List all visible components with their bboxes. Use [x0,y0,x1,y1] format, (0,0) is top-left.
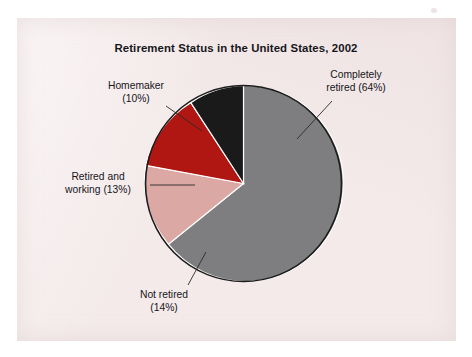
pie-label-completely-retired: Completely retired (64%) [305,68,407,94]
pie-label-retired-and-working: Retired and working (13%) [42,170,154,196]
pie-label-not-retired: Not retired (14%) [112,288,216,314]
pie-label-homemaker: Homemaker (10%) [88,79,184,105]
chart-screenshot: Retirement Status in the United States, … [0,0,472,357]
